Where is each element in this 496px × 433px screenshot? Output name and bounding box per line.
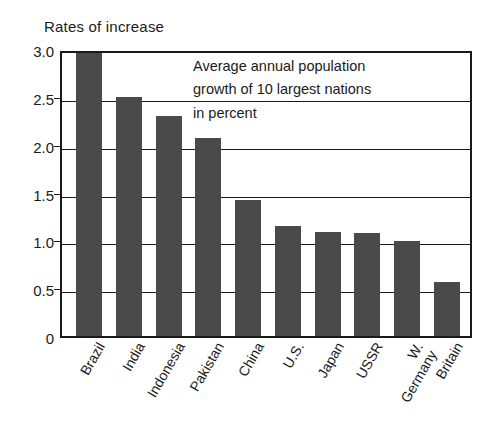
- chart-annotation: Average annual populationgrowth of 10 la…: [193, 55, 371, 125]
- bar: [156, 116, 182, 336]
- bar: [195, 138, 221, 336]
- y-tick-label: 1.0: [33, 234, 54, 251]
- annotation-line: Average annual population: [193, 55, 371, 78]
- annotation-line: growth of 10 largest nations: [193, 78, 371, 101]
- y-tick-label: 2.5: [33, 90, 54, 107]
- bar: [235, 200, 261, 336]
- bar-chart-figure: Rates of increase 00.51.01.52.02.53.0 Br…: [0, 0, 496, 433]
- x-tick-label: Japan: [315, 340, 348, 381]
- bar: [275, 226, 301, 336]
- x-tick-label: Indonesia: [144, 340, 188, 400]
- y-tick-label: 2.0: [33, 138, 54, 155]
- x-tick-label: Pakistan: [187, 340, 227, 394]
- bar: [354, 233, 380, 336]
- bar: [76, 51, 102, 336]
- x-tick-label: India: [120, 340, 149, 374]
- bar: [315, 232, 341, 336]
- bar: [116, 97, 142, 336]
- x-tick-label: U.S.: [280, 340, 307, 371]
- x-tick-label: China: [236, 340, 268, 380]
- chart-title: Rates of increase: [44, 18, 164, 35]
- y-tick-label: 3.0: [33, 43, 54, 60]
- x-tick-label: USSR: [354, 340, 387, 382]
- y-tick-label: 0.5: [33, 282, 54, 299]
- bar: [434, 282, 460, 336]
- x-axis-labels: BrazilIndiaIndonesiaPakistanChinaU.S.Jap…: [60, 340, 472, 433]
- bar: [394, 241, 420, 336]
- x-tick-label: Britain: [433, 340, 466, 382]
- annotation-line: in percent: [193, 102, 371, 125]
- y-axis: 00.51.01.52.02.53.0: [0, 51, 54, 338]
- y-tick-label: 1.5: [33, 186, 54, 203]
- y-tick-label: 0: [46, 330, 54, 347]
- x-tick-label: Brazil: [77, 340, 108, 378]
